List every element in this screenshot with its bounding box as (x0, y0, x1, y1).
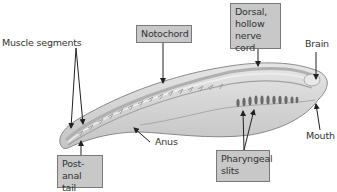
pharyngeal-slits-label-box: Pharyngeal slits (216, 150, 270, 182)
chordate-diagram: Notochord Dorsal, hollow nerve cord Post… (0, 0, 337, 192)
brain-shape (304, 74, 320, 86)
arrow-muscle-2 (76, 48, 83, 124)
arrow-mouth (316, 104, 320, 130)
post-anal-tail-label-line-1: Post-anal (62, 158, 98, 182)
nerve-cord-label-box: Dorsal, hollow nerve cord (230, 3, 281, 49)
mouth-label: Mouth (306, 130, 335, 141)
pharyngeal-slits-label-line-2: slits (221, 165, 265, 177)
nerve-cord-label-line-2: hollow (235, 18, 276, 30)
anus-label: Anus (155, 136, 178, 147)
nerve-cord-label-line-1: Dorsal, (235, 6, 276, 18)
notochord-label: Notochord (141, 28, 187, 40)
body-outline (60, 63, 328, 149)
muscle-segments-label: Muscle segments (2, 37, 82, 48)
pharyngeal-slits-label-line-1: Pharyngeal (221, 153, 265, 165)
nerve-cord-label-line-3: nerve cord (235, 30, 276, 54)
post-anal-tail-label-box: Post-anal tail (57, 155, 103, 188)
notochord-label-box: Notochord (136, 25, 192, 43)
post-anal-tail-label-line-2: tail (62, 182, 98, 192)
arrow-muscle-1 (71, 48, 76, 128)
brain-label: Brain (305, 38, 329, 49)
